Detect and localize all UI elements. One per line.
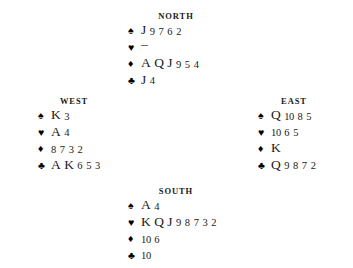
east-diamonds: K <box>271 141 281 155</box>
spade-icon: ♠ <box>258 111 271 122</box>
north-diamonds: AQJ954 <box>141 56 202 70</box>
position-label-west: WEST <box>38 96 110 106</box>
spade-icon: ♠ <box>38 111 51 122</box>
north-clubs: J4 <box>141 73 159 87</box>
west-spades: K3 <box>51 108 73 122</box>
diamond-icon: ♦ <box>128 59 141 70</box>
club-icon: ♣ <box>38 161 51 172</box>
position-label-south: SOUTH <box>128 186 224 196</box>
bridge-hand-diagram: NORTH ♠ J9762 ♥ – ♦ AQJ954 ♣ J4 WEST ♠ K… <box>0 0 353 268</box>
west-diamonds: 8732 <box>51 141 86 155</box>
south-clubs: 10 <box>141 248 154 262</box>
spade-icon: ♠ <box>128 201 141 212</box>
south-hearts: KQJ98732 <box>141 215 220 229</box>
suit-row-south-clubs: ♣ 10 <box>128 248 224 265</box>
east-spades: Q1085 <box>271 108 315 122</box>
club-icon: ♣ <box>128 76 141 87</box>
suit-row-west-clubs: ♣ AK653 <box>38 158 110 175</box>
diamond-icon: ♦ <box>128 234 141 245</box>
suit-row-west-hearts: ♥ A4 <box>38 125 110 142</box>
south-diamonds: 106 <box>141 231 163 245</box>
heart-icon: ♥ <box>38 128 51 139</box>
hand-east: EAST ♠ Q1085 ♥ 1065 ♦ K ♣ Q9872 <box>258 96 330 174</box>
east-hearts: 1065 <box>271 125 302 139</box>
diamond-icon: ♦ <box>258 144 271 155</box>
north-spades: J9762 <box>141 23 185 37</box>
suit-row-east-diamonds: ♦ K <box>258 141 330 158</box>
south-spades: A4 <box>141 198 163 212</box>
hand-west: WEST ♠ K3 ♥ A4 ♦ 8732 ♣ AK653 <box>38 96 110 174</box>
north-hearts: – <box>141 40 148 54</box>
suit-row-east-clubs: ♣ Q9872 <box>258 158 330 175</box>
hand-north: NORTH ♠ J9762 ♥ – ♦ AQJ954 ♣ J4 <box>128 11 224 89</box>
heart-icon: ♥ <box>128 43 141 54</box>
diamond-icon: ♦ <box>38 144 51 155</box>
position-label-north: NORTH <box>128 11 224 21</box>
suit-row-west-diamonds: ♦ 8732 <box>38 141 110 158</box>
spade-icon: ♠ <box>128 26 141 37</box>
suit-row-east-hearts: ♥ 1065 <box>258 125 330 142</box>
suit-row-north-hearts: ♥ – <box>128 40 224 57</box>
suit-row-west-spades: ♠ K3 <box>38 108 110 125</box>
east-clubs: Q9872 <box>271 158 320 172</box>
west-clubs: AK653 <box>51 158 104 172</box>
suit-row-south-spades: ♠ A4 <box>128 198 224 215</box>
suit-row-east-spades: ♠ Q1085 <box>258 108 330 125</box>
club-icon: ♣ <box>258 161 271 172</box>
suit-row-north-diamonds: ♦ AQJ954 <box>128 56 224 73</box>
suit-row-south-hearts: ♥ KQJ98732 <box>128 215 224 232</box>
suit-row-south-diamonds: ♦ 106 <box>128 231 224 248</box>
heart-icon: ♥ <box>128 218 141 229</box>
west-hearts: A4 <box>51 125 73 139</box>
position-label-east: EAST <box>258 96 330 106</box>
heart-icon: ♥ <box>258 128 271 139</box>
suit-row-north-clubs: ♣ J4 <box>128 73 224 90</box>
club-icon: ♣ <box>128 251 141 262</box>
hand-south: SOUTH ♠ A4 ♥ KQJ98732 ♦ 106 ♣ 10 <box>128 186 224 264</box>
